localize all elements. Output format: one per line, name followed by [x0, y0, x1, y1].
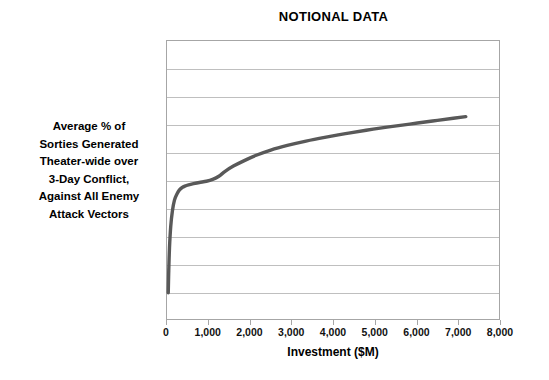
x-axis-tick-mark [166, 320, 167, 325]
x-axis-tick-labels: 01,0002,0003,0004,0005,0006,0007,0008,00… [0, 326, 549, 342]
x-axis-tick-mark [375, 320, 376, 325]
series-path-average-sorties [168, 117, 466, 293]
y-axis-title-line-1: Average % of [18, 118, 160, 136]
y-axis-title-line-6: Attack Vectors [18, 206, 160, 224]
x-axis-title: Investment ($M) [166, 345, 500, 359]
x-axis-tick-mark [458, 320, 459, 325]
x-axis-tick-label: 8,000 [470, 326, 530, 338]
x-axis-tick-mark [333, 320, 334, 325]
x-axis-tick-mark [417, 320, 418, 325]
x-axis-tick-mark [250, 320, 251, 325]
y-axis-title: Average % of Sorties Generated Theater-w… [18, 118, 160, 224]
x-axis-tick-mark [500, 320, 501, 325]
x-axis-tick-mark [208, 320, 209, 325]
series-line-chart [167, 41, 499, 319]
chart-title: NOTIONAL DATA [0, 9, 549, 24]
y-axis-title-line-4: 3-Day Conflict, [18, 171, 160, 189]
y-axis-title-line-2: Sorties Generated [18, 136, 160, 154]
x-axis-tick-mark [291, 320, 292, 325]
y-axis-title-line-5: Against All Enemy [18, 188, 160, 206]
y-axis-title-line-3: Theater-wide over [18, 153, 160, 171]
plot-area [166, 40, 500, 320]
